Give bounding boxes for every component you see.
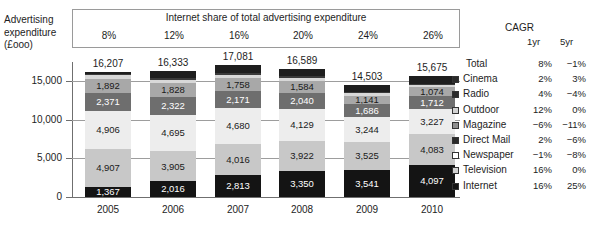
segment-direct-mail-2010[interactable]: 1,712 [409, 96, 455, 109]
legend-swatch-television-icon [452, 167, 459, 174]
internet-share-value-2005: 8% [89, 30, 129, 41]
segment-television-2010[interactable]: 4,083 [409, 134, 455, 165]
segment-magazine-2009[interactable]: 1,141 [344, 96, 390, 105]
segment-value-label: 3,244 [355, 125, 378, 135]
legend-row-magazine[interactable]: Magazine−6%−11% [452, 118, 593, 133]
segment-value-label: 2,371 [96, 97, 119, 107]
segment-value-label: 1,367 [96, 187, 119, 197]
legend-row-cinema[interactable]: Cinema2%3% [452, 72, 593, 87]
legend-row-internet[interactable]: Internet16%25% [452, 179, 593, 194]
legend-row-television[interactable]: Television16%0% [452, 163, 593, 178]
x-axis-line [72, 197, 460, 198]
segment-television-2008[interactable]: 3,922 [279, 141, 325, 171]
internet-share-value-2009: 24% [348, 30, 388, 41]
bar-2006[interactable]: 1,8282,3224,6953,9052,016 [150, 71, 196, 197]
segment-magazine-2007[interactable]: 1,758 [215, 78, 261, 92]
legend-row-direct-mail[interactable]: Direct Mail2%−6% [452, 133, 593, 148]
segment-newspaper-2010[interactable]: 3,227 [409, 109, 455, 134]
segment-television-2006[interactable]: 3,905 [150, 151, 196, 181]
segment-newspaper-2007[interactable]: 4,680 [215, 108, 261, 144]
chart-container: Advertising expenditure (£ooo) Internet … [0, 0, 593, 238]
cagr-col-5yr: 5yr [560, 36, 573, 47]
segment-direct-mail-2005[interactable]: 2,371 [85, 93, 131, 111]
segment-internet-2010[interactable]: 4,097 [409, 165, 455, 197]
segment-television-2009[interactable]: 3,525 [344, 142, 390, 169]
segment-value-label: 1,074 [420, 87, 443, 95]
cagr-1yr-cinema: 2% [526, 73, 552, 84]
legend-label-magazine: Magazine [463, 119, 506, 130]
cagr-1yr-outdoor: 12% [526, 104, 552, 115]
segment-direct-mail-2007[interactable]: 2,171 [215, 91, 261, 108]
segment-direct-mail-2006[interactable]: 2,322 [150, 97, 196, 115]
x-tick-label-2010: 2010 [402, 204, 462, 215]
segment-cinema-2008[interactable] [279, 69, 325, 76]
segment-cinema-2007[interactable] [215, 65, 261, 73]
cagr-1yr-internet: 16% [526, 180, 552, 191]
segment-cinema-2006[interactable] [150, 71, 196, 78]
legend-row-total[interactable]: Total8%−1% [452, 57, 593, 72]
segment-newspaper-2008[interactable]: 4,129 [279, 109, 325, 141]
bar-total-2007: 17,081 [208, 51, 268, 62]
y-tick-label-5000: 5,000 [6, 152, 62, 163]
y-axis-line [72, 62, 73, 198]
segment-value-label: 3,922 [290, 151, 313, 161]
segment-direct-mail-2009[interactable]: 1,686 [344, 104, 390, 117]
segment-cinema-2009[interactable] [344, 85, 390, 92]
segment-value-label: 2,040 [290, 96, 313, 106]
segment-internet-2005[interactable]: 1,367 [85, 187, 131, 197]
segment-cinema-2010[interactable] [409, 76, 455, 84]
bar-total-2008: 16,589 [272, 55, 332, 66]
segment-newspaper-2005[interactable]: 4,906 [85, 111, 131, 149]
segment-value-label: 4,129 [290, 120, 313, 130]
legend-label-direct-mail: Direct Mail [463, 134, 510, 145]
segment-magazine-2006[interactable]: 1,828 [150, 83, 196, 97]
segment-value-label: 3,227 [420, 117, 443, 127]
internet-share-values: 8%12%16%20%24%26% [73, 30, 459, 46]
segment-value-label: 1,892 [96, 81, 119, 91]
legend-swatch-radio-icon [452, 91, 459, 98]
bar-total-2009: 14,503 [337, 71, 397, 82]
segment-value-label: 4,907 [96, 163, 119, 173]
legend-row-radio[interactable]: Radio4%−4% [452, 87, 593, 102]
x-tick-label-2008: 2008 [272, 204, 332, 215]
bar-2008[interactable]: 1,5842,0404,1293,9223,350 [279, 69, 325, 197]
y-tick-10000 [66, 120, 72, 121]
segment-direct-mail-2008[interactable]: 2,040 [279, 93, 325, 109]
cagr-1yr-total: 8% [526, 58, 552, 69]
segment-internet-2008[interactable]: 3,350 [279, 171, 325, 197]
cagr-5yr-magazine: −11% [556, 119, 586, 130]
segment-value-label: 1,141 [355, 96, 378, 105]
segment-value-label: 2,813 [226, 181, 249, 191]
legend-label-television: Television [463, 164, 507, 175]
segment-magazine-2005[interactable]: 1,892 [85, 79, 131, 94]
bar-2005[interactable]: 1,8922,3714,9064,9071,367 [85, 72, 131, 197]
segment-value-label: 1,686 [355, 106, 378, 116]
segment-value-label: 3,541 [355, 179, 378, 189]
legend-swatch-direct-mail-icon [452, 137, 459, 144]
legend-label-outdoor: Outdoor [463, 104, 499, 115]
segment-newspaper-2006[interactable]: 4,695 [150, 115, 196, 151]
segment-internet-2007[interactable]: 2,813 [215, 175, 261, 197]
bar-2010[interactable]: 1,0741,7123,2274,0834,097 [409, 76, 455, 197]
segment-value-label: 3,525 [355, 151, 378, 161]
legend-label-internet: Internet [463, 180, 497, 191]
legend: Total8%−1%Cinema2%3%Radio4%−4%Outdoor12%… [452, 57, 593, 194]
segment-television-2007[interactable]: 4,016 [215, 144, 261, 175]
segment-magazine-2008[interactable]: 1,584 [279, 81, 325, 93]
cagr-5yr-internet: 25% [556, 180, 586, 191]
segment-television-2005[interactable]: 4,907 [85, 149, 131, 187]
legend-row-newspaper[interactable]: Newspaper−1%−8% [452, 148, 593, 163]
segment-internet-2006[interactable]: 2,016 [150, 181, 196, 197]
y-tick-5000 [66, 158, 72, 159]
bar-2007[interactable]: 1,7582,1714,6804,0162,813 [215, 65, 261, 197]
legend-row-outdoor[interactable]: Outdoor12%0% [452, 103, 593, 118]
legend-label-total: Total [466, 58, 487, 69]
segment-value-label: 4,695 [161, 128, 184, 138]
segment-value-label: 1,712 [420, 98, 443, 108]
bar-2009[interactable]: 1,1411,6863,2443,5253,541 [344, 85, 390, 197]
legend-swatch-cinema-icon [452, 76, 459, 83]
segment-internet-2009[interactable]: 3,541 [344, 170, 390, 197]
segment-magazine-2010[interactable]: 1,074 [409, 87, 455, 95]
segment-newspaper-2009[interactable]: 3,244 [344, 117, 390, 142]
segment-value-label: 2,322 [161, 101, 184, 111]
